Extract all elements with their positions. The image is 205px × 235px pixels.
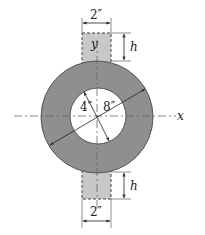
bottom-width-label: 2″ <box>90 205 103 219</box>
bottom-height-label: h <box>130 179 138 193</box>
section-diagram: 2″ h h 2″ 4″ 8″ x y <box>0 0 205 235</box>
inner-dimension-label: 4″ <box>80 100 93 114</box>
top-height-label: h <box>130 40 138 54</box>
top-width-label: 2″ <box>90 8 103 22</box>
x-axis-label: x <box>177 109 184 123</box>
outer-dimension-label: 8″ <box>103 100 116 114</box>
y-axis-label: y <box>90 37 98 51</box>
